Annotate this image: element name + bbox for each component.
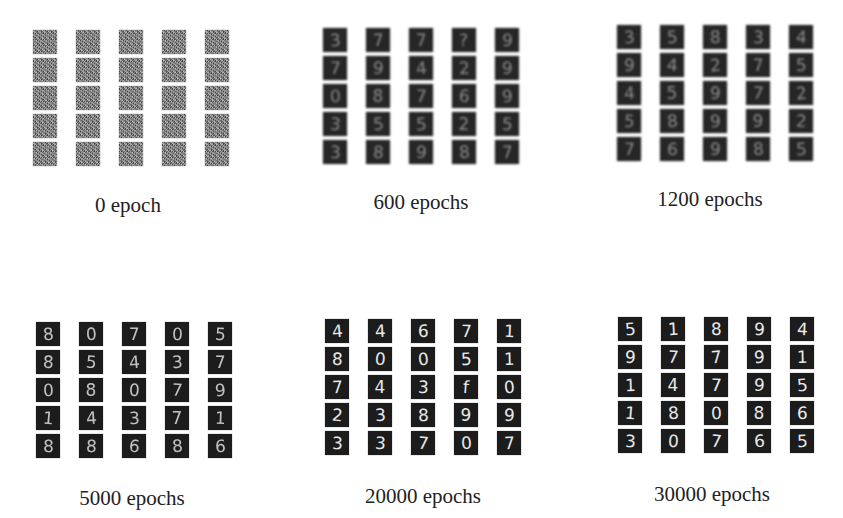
generated-sample-tile: 4: [122, 350, 146, 374]
generated-sample-tile: 0: [661, 429, 685, 453]
generated-sample-tile: 7: [366, 28, 390, 52]
generated-sample-tile: 8: [661, 401, 685, 425]
generated-sample-tile: 8: [79, 378, 103, 402]
generated-sample-tile: 9: [703, 137, 727, 161]
generated-sample-tile: 5: [495, 112, 519, 136]
generated-sample-tile: 3: [746, 25, 770, 49]
generated-sample-tile: [205, 30, 229, 54]
generated-sample-tile: 8: [746, 137, 770, 161]
generated-sample-tile: [76, 58, 100, 82]
generated-sample-tile: 7: [411, 431, 435, 455]
generated-sample-tile: 3: [323, 112, 347, 136]
generated-sample-tile: 0: [497, 375, 521, 399]
generated-sample-tile: 2: [789, 81, 813, 105]
generated-sample-tile: 7: [495, 140, 519, 164]
generated-sample-tile: 6: [208, 434, 232, 458]
generated-sample-tile: [205, 58, 229, 82]
generated-sample-tile: 5: [789, 137, 813, 161]
generated-sample-tile: 9: [366, 56, 390, 80]
generated-sample-tile: [76, 30, 100, 54]
generated-sample-tile: 4: [660, 53, 684, 77]
panel-caption: 0 epoch: [95, 193, 161, 218]
generated-sample-tile: 5: [208, 322, 232, 346]
generated-sample-tile: 0: [411, 347, 435, 371]
generated-sample-tile: 9: [495, 84, 519, 108]
generated-sample-tile: 7: [661, 345, 685, 369]
generated-sample-tile: 6: [122, 434, 146, 458]
generated-sample-tile: 7: [165, 378, 189, 402]
generated-sample-tile: 5: [618, 317, 642, 341]
generated-sample-tile: 1: [618, 401, 642, 425]
generated-sample-tile: [205, 142, 229, 166]
generated-sample-tile: 9: [495, 28, 519, 52]
generated-sample-tile: 5: [789, 53, 813, 77]
generated-sample-tile: [162, 114, 186, 138]
generated-sample-tile: 0: [122, 378, 146, 402]
generated-sample-tile: 4: [79, 406, 103, 430]
generated-sample-tile: [162, 142, 186, 166]
generated-sample-tile: 9: [618, 345, 642, 369]
generated-sample-tile: [205, 86, 229, 110]
panel-caption: 600 epochs: [373, 190, 468, 215]
generated-sample-tile: 3: [122, 406, 146, 430]
generated-sample-tile: 8: [165, 434, 189, 458]
generated-sample-tile: 8: [36, 350, 60, 374]
generated-sample-tile: 6: [660, 137, 684, 161]
generated-sample-tile: 5: [660, 25, 684, 49]
generated-sample-tile: 5: [660, 81, 684, 105]
generated-sample-tile: 3: [323, 140, 347, 164]
generated-sample-tile: 4: [368, 375, 392, 399]
generated-sample-tile: 0: [165, 322, 189, 346]
generated-sample-tile: 6: [747, 429, 771, 453]
generated-sample-tile: 5: [366, 112, 390, 136]
generated-sample-tile: 6: [452, 84, 476, 108]
generated-sample-tile: [33, 114, 57, 138]
generated-sample-tile: 6: [411, 319, 435, 343]
generated-sample-tile: 8: [36, 434, 60, 458]
generated-sample-tile: 5: [79, 350, 103, 374]
generated-sample-tile: 7: [323, 56, 347, 80]
generated-sample-tile: 4: [368, 319, 392, 343]
generated-sample-tile: 2: [703, 53, 727, 77]
generated-sample-tile: 9: [747, 345, 771, 369]
generated-sample-tile: 0: [36, 378, 60, 402]
generated-sample-tile: 9: [208, 378, 232, 402]
generated-sample-tile: 1: [208, 406, 232, 430]
panel-caption: 30000 epochs: [654, 482, 770, 507]
generated-sample-tile: 1: [497, 319, 521, 343]
generated-sample-tile: 4: [789, 25, 813, 49]
generated-sample-tile: 4: [617, 81, 641, 105]
generated-sample-tile: [76, 86, 100, 110]
generated-sample-tile: 8: [704, 317, 728, 341]
generated-sample-tile: 3: [618, 429, 642, 453]
generated-sample-tile: 1: [36, 406, 60, 430]
generated-sample-tile: 1: [497, 347, 521, 371]
generated-sample-tile: [119, 86, 143, 110]
generated-sample-tile: [162, 86, 186, 110]
generated-sample-tile: [162, 30, 186, 54]
generated-sample-tile: [119, 30, 143, 54]
generated-sample-tile: [119, 142, 143, 166]
generated-sample-tile: [119, 58, 143, 82]
generated-sample-tile: 7: [746, 81, 770, 105]
generated-sample-tile: [205, 114, 229, 138]
generated-sample-tile: 3: [165, 350, 189, 374]
generated-sample-tile: 5: [454, 347, 478, 371]
generated-sample-tile: [33, 86, 57, 110]
generated-sample-tile: 8: [452, 140, 476, 164]
generated-sample-tile: 3: [325, 431, 349, 455]
generated-sample-tile: 5: [790, 373, 814, 397]
generated-sample-tile: 9: [747, 373, 771, 397]
generated-sample-tile: 3: [617, 25, 641, 49]
generated-sample-tile: 8: [703, 25, 727, 49]
generated-sample-tile: 1: [661, 317, 685, 341]
generated-sample-tile: 3: [368, 431, 392, 455]
generated-sample-tile: 7: [122, 322, 146, 346]
generated-sample-tile: 9: [409, 140, 433, 164]
generated-sample-tile: 9: [497, 403, 521, 427]
generated-sample-tile: [33, 142, 57, 166]
generated-sample-tile: 3: [411, 375, 435, 399]
generated-sample-tile: 9: [746, 109, 770, 133]
generated-sample-tile: 0: [704, 401, 728, 425]
generated-sample-tile: 7: [704, 373, 728, 397]
